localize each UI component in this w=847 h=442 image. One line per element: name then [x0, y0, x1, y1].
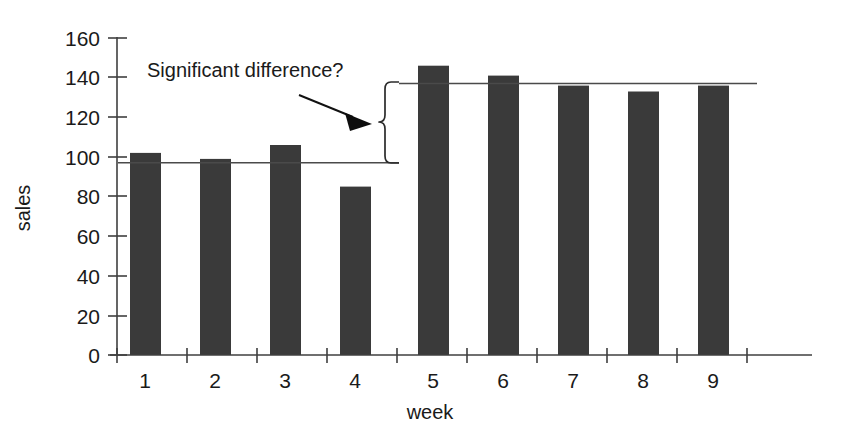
x-tick-label-6: 6: [497, 369, 509, 392]
y-tick-label-40: 40: [77, 265, 100, 288]
y-tick-label-60: 60: [77, 225, 100, 248]
difference-brace: [379, 82, 399, 163]
bar-week-2[interactable]: [200, 159, 231, 355]
annotation-arrow-shaft: [299, 95, 353, 117]
x-axis: 1 2 3 4 5 6 7 8 9 week: [110, 348, 812, 423]
x-tick-label-7: 7: [567, 369, 579, 392]
y-tick-label-100: 100: [65, 146, 100, 169]
bar-week-6[interactable]: [488, 76, 519, 355]
y-tick-label-140: 140: [65, 66, 100, 89]
y-axis-title: sales: [12, 185, 34, 232]
bar-week-5[interactable]: [418, 66, 449, 355]
y-axis: 160 140 120 100 80 60 40 20 0 sales: [12, 27, 127, 367]
y-tick-label-20: 20: [77, 305, 100, 328]
y-tick-label-0: 0: [88, 344, 100, 367]
bar-week-1[interactable]: [130, 153, 161, 355]
x-tick-label-5: 5: [427, 369, 439, 392]
x-axis-title: week: [406, 401, 455, 423]
sales-by-week-bar-chart: 160 140 120 100 80 60 40 20 0 sales: [0, 0, 847, 442]
bar-week-3[interactable]: [270, 145, 301, 355]
y-tick-label-80: 80: [77, 185, 100, 208]
x-tick-label-1: 1: [139, 369, 151, 392]
chart-canvas: 160 140 120 100 80 60 40 20 0 sales: [0, 0, 847, 442]
significant-difference-annotation: Significant difference?: [147, 59, 372, 131]
bar-week-8[interactable]: [628, 92, 659, 356]
x-tick-label-3: 3: [279, 369, 291, 392]
bar-week-4[interactable]: [340, 187, 371, 355]
x-tick-label-4: 4: [349, 369, 361, 392]
annotation-label: Significant difference?: [147, 59, 343, 81]
x-tick-label-9: 9: [707, 369, 719, 392]
bar-week-9[interactable]: [698, 86, 729, 355]
y-tick-label-120: 120: [65, 106, 100, 129]
x-tick-label-2: 2: [209, 369, 221, 392]
bar-series-sales: [130, 66, 729, 355]
x-tick-label-8: 8: [637, 369, 649, 392]
annotation-arrow-head: [345, 113, 372, 131]
bar-week-7[interactable]: [558, 86, 589, 355]
y-tick-label-160: 160: [65, 27, 100, 50]
